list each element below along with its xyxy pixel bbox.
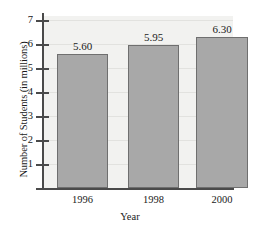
y-tick-mark-3 xyxy=(36,116,49,118)
y-tick-label-7: 7 xyxy=(20,15,33,26)
y-tick-mark-6 xyxy=(36,44,49,46)
bar-1998 xyxy=(128,45,179,188)
y-tick-mark-5 xyxy=(36,68,49,70)
y-tick-label-1: 1 xyxy=(20,159,33,170)
y-tick-mark-7 xyxy=(36,20,49,22)
x-tick-label-2000: 2000 xyxy=(196,194,248,205)
y-tick-mark-4 xyxy=(36,92,49,94)
x-tick-label-1996: 1996 xyxy=(57,194,108,205)
y-tick-label-4: 4 xyxy=(20,87,33,98)
bar-value-2000: 6.30 xyxy=(196,23,248,35)
x-tick-label-1998: 1998 xyxy=(128,194,179,205)
y-tick-label-3: 3 xyxy=(20,111,33,122)
y-tick-label-5: 5 xyxy=(20,63,33,74)
bar-chart: Number of Students (in millions) 5.60 5.… xyxy=(0,0,260,234)
y-tick-label-6: 6 xyxy=(20,39,33,50)
gridline xyxy=(44,20,233,21)
y-tick-label-2: 2 xyxy=(20,135,33,146)
x-axis-title: Year xyxy=(0,211,260,222)
bar-value-1996: 5.60 xyxy=(57,40,108,52)
bar-2000 xyxy=(196,37,248,188)
bar-value-1998: 5.95 xyxy=(128,31,179,43)
y-tick-mark-2 xyxy=(36,140,49,142)
bar-1996 xyxy=(57,54,108,188)
x-axis-line xyxy=(36,188,234,190)
y-tick-mark-1 xyxy=(36,164,49,166)
